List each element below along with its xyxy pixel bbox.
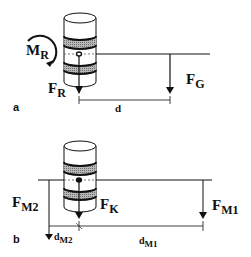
panel-a-label: a <box>13 101 20 113</box>
cylinder-icon <box>64 141 96 212</box>
cylinder-icon <box>64 13 96 87</box>
force-r-label: FR <box>48 80 66 100</box>
distance-m1-label: dM1 <box>139 235 158 249</box>
panel-b: FM2 FK FM1 dM2 dM1 b <box>12 141 239 249</box>
force-g-label: FG <box>186 71 205 91</box>
dimension-d <box>79 96 170 104</box>
force-k-label: FK <box>100 196 119 216</box>
distance-d-label: d <box>115 102 121 114</box>
force-m1-label: FM1 <box>212 197 239 217</box>
mechanics-diagram: MR FR FG d a <box>0 0 251 257</box>
panel-a: MR FR FG d a <box>13 13 210 114</box>
panel-b-label: b <box>13 233 20 245</box>
distance-m2-label: dM2 <box>54 231 73 245</box>
force-m2-label: FM2 <box>12 194 39 214</box>
dimension-lines <box>49 221 203 231</box>
moment-r-label: MR <box>26 42 49 62</box>
